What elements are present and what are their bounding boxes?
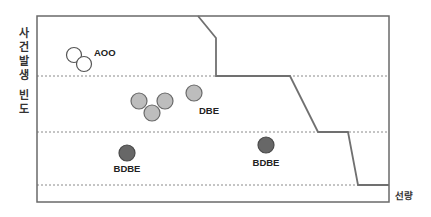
group-label: BDBE [114, 163, 141, 174]
event-marker [186, 85, 202, 101]
y-axis-char: 생 [19, 68, 29, 82]
event-marker [131, 93, 147, 109]
x-axis-label: 선량 [395, 190, 413, 201]
y-axis-label: 사 건 발 생 빈 도 [19, 26, 30, 116]
dose-frequency-diagram: AOODBEBDBEBDBE 사 건 발 생 빈 도 선량 [0, 0, 431, 217]
group-bdbe: BDBE [253, 137, 280, 168]
y-axis-char: 도 [19, 103, 29, 116]
event-marker [157, 93, 173, 109]
y-axis-char: 건 [19, 40, 29, 54]
group-dbe: DBE [131, 85, 219, 121]
event-marker [258, 137, 274, 153]
group-label: DBE [199, 105, 219, 116]
event-marker [119, 145, 135, 161]
group-bdbe: BDBE [114, 145, 141, 174]
group-aoo: AOO [67, 47, 116, 72]
group-label: BDBE [253, 157, 280, 168]
event-marker [77, 57, 92, 72]
y-axis-char: 사 [19, 26, 30, 40]
event-marker [144, 105, 160, 121]
group-label: AOO [94, 47, 116, 58]
y-axis-char: 발 [19, 54, 29, 68]
frequency-band-dividers [37, 76, 389, 185]
boundary-step-curve [198, 16, 389, 185]
y-axis-char: 빈 [19, 88, 29, 102]
event-groups: AOODBEBDBEBDBE [67, 47, 280, 174]
